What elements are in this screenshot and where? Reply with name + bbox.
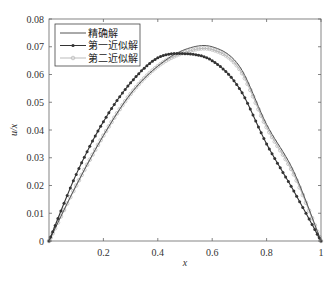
data-point xyxy=(308,217,311,220)
data-point xyxy=(96,130,99,133)
data-point xyxy=(170,52,173,55)
data-point xyxy=(129,81,132,84)
y-tick-label: 0.02 xyxy=(27,180,45,191)
data-point xyxy=(213,61,216,64)
y-tick-label: 0.08 xyxy=(27,14,45,25)
data-point xyxy=(254,119,257,122)
data-point xyxy=(238,87,241,90)
data-point xyxy=(227,73,230,76)
data-point xyxy=(194,53,197,56)
y-axis-label: u/x xyxy=(8,123,19,136)
data-point xyxy=(156,56,159,59)
data-point xyxy=(298,200,301,203)
data-point xyxy=(110,107,113,110)
data-point xyxy=(219,65,222,68)
data-point xyxy=(260,131,263,134)
data-point xyxy=(83,156,86,159)
legend-label: 第二近似解 xyxy=(88,52,138,64)
data-point xyxy=(94,135,97,138)
data-point xyxy=(126,85,129,88)
data-point xyxy=(56,217,59,220)
legend-label: 第一近似解 xyxy=(88,39,138,51)
y-tick-label: 0.01 xyxy=(27,208,45,219)
data-point xyxy=(313,228,316,231)
data-point xyxy=(249,107,252,110)
data-point xyxy=(276,162,279,165)
data-point xyxy=(295,195,298,198)
data-point xyxy=(164,53,167,56)
data-point xyxy=(173,52,176,55)
data-point xyxy=(192,53,195,56)
data-point xyxy=(66,194,69,197)
data-point xyxy=(121,92,124,95)
data-point xyxy=(301,206,304,209)
y-tick-label: 0.07 xyxy=(27,41,45,52)
data-point xyxy=(257,125,260,128)
data-point xyxy=(316,233,319,236)
data-point xyxy=(208,58,211,61)
data-point xyxy=(107,111,110,114)
data-point xyxy=(49,235,52,238)
legend-label: 精确解 xyxy=(88,27,118,39)
data-point xyxy=(241,91,244,94)
data-point xyxy=(135,75,138,78)
data-point xyxy=(105,116,108,119)
x-axis-label: x xyxy=(182,257,188,268)
data-point xyxy=(151,60,154,63)
data-point xyxy=(54,224,57,227)
data-point xyxy=(181,52,184,55)
y-tick-label: 0.04 xyxy=(27,125,45,136)
x-tick-label: 0.2 xyxy=(97,247,110,258)
data-point xyxy=(99,125,102,128)
data-point xyxy=(271,152,274,155)
data-point xyxy=(252,113,255,116)
y-tick-label: 0.03 xyxy=(27,152,45,163)
data-point xyxy=(118,95,121,98)
data-point xyxy=(292,190,295,193)
data-point xyxy=(281,171,284,174)
data-point xyxy=(224,70,227,73)
data-point xyxy=(77,167,80,170)
y-tick-label: 0.05 xyxy=(27,97,45,108)
data-point xyxy=(211,59,214,62)
data-point xyxy=(154,58,157,61)
data-point xyxy=(232,79,235,82)
x-tick-label: 0.8 xyxy=(260,247,273,258)
data-point xyxy=(86,150,89,153)
data-point xyxy=(116,99,119,102)
data-point xyxy=(189,53,192,56)
data-point xyxy=(132,78,135,81)
data-point xyxy=(69,186,72,189)
data-point xyxy=(148,62,151,65)
data-point xyxy=(167,53,170,56)
x-tick-label: 0.4 xyxy=(152,247,165,258)
plot-area xyxy=(47,46,323,243)
data-point xyxy=(200,54,203,57)
y-tick-label: 0.06 xyxy=(27,69,45,80)
data-point xyxy=(243,96,246,99)
data-point xyxy=(178,52,181,55)
data-point xyxy=(80,161,83,164)
data-point xyxy=(287,180,290,183)
y-tick-label: 0 xyxy=(39,236,44,247)
data-point xyxy=(262,137,265,140)
data-point xyxy=(216,63,219,66)
data-point xyxy=(290,185,293,188)
data-point xyxy=(203,55,206,58)
x-tick-label: 1 xyxy=(319,247,324,258)
data-point xyxy=(184,52,187,55)
data-point xyxy=(59,209,62,212)
data-point xyxy=(235,83,238,86)
data-point xyxy=(246,102,249,105)
data-point xyxy=(75,173,78,176)
data-point xyxy=(318,237,321,240)
data-point xyxy=(72,179,75,182)
chart: 00.010.020.030.040.050.060.070.080.20.40… xyxy=(0,0,336,281)
data-point xyxy=(284,175,287,178)
data-point xyxy=(230,76,233,79)
data-point xyxy=(279,166,282,169)
data-point xyxy=(51,230,54,233)
data-point xyxy=(222,67,225,70)
data-point xyxy=(124,88,127,91)
data-point xyxy=(63,202,66,205)
